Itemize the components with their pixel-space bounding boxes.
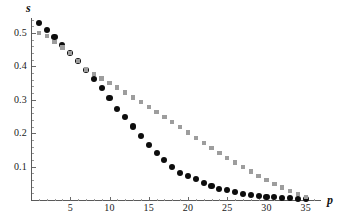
x-axis-line	[31, 200, 321, 201]
data-point	[264, 178, 268, 182]
data-point	[249, 169, 253, 173]
data-point	[263, 194, 269, 200]
data-point	[45, 34, 49, 38]
y-axis-tick-minor	[32, 80, 34, 81]
y-axis-tick-minor	[32, 173, 34, 174]
data-point	[193, 176, 199, 182]
y-axis-tick-major	[32, 133, 36, 134]
data-point	[232, 189, 238, 195]
y-axis-tick-minor	[32, 107, 34, 108]
data-point	[68, 51, 72, 55]
data-point	[60, 45, 64, 49]
data-point	[272, 182, 276, 186]
data-point	[304, 195, 308, 199]
x-axis-tick-major	[188, 197, 189, 201]
data-point	[288, 189, 292, 193]
x-axis-tick-major	[110, 197, 111, 201]
data-point	[106, 95, 112, 101]
data-point	[194, 136, 198, 140]
data-point	[115, 85, 119, 89]
data-point	[233, 160, 237, 164]
data-point	[99, 85, 105, 91]
x-axis-tick-minor	[196, 199, 197, 201]
x-axis-tick-minor	[157, 199, 158, 201]
data-point	[217, 151, 221, 155]
y-axis-tick-label: 0.1	[3, 161, 27, 172]
x-axis-tick-label: 10	[97, 202, 123, 213]
x-axis-tick-minor	[180, 199, 181, 201]
y-axis-tick-minor	[32, 86, 34, 87]
data-point	[256, 193, 262, 199]
x-axis-tick-major	[149, 197, 150, 201]
data-point	[44, 27, 50, 33]
y-axis-tick-label: 0.5	[3, 27, 27, 38]
x-axis-tick-minor	[219, 199, 220, 201]
data-point	[139, 100, 143, 104]
data-point	[295, 196, 301, 202]
y-axis-tick-minor	[32, 46, 34, 47]
data-point	[162, 115, 166, 119]
scatter-plot-figure: 5101520253035 0.10.20.30.40.5 s p	[0, 0, 344, 222]
data-point	[92, 72, 96, 76]
data-point	[114, 106, 120, 112]
y-axis-tick-minor	[32, 40, 34, 41]
y-axis-tick-minor	[32, 187, 34, 188]
data-point	[131, 95, 135, 99]
x-axis-tick-minor	[102, 199, 103, 201]
x-axis-tick-minor	[117, 199, 118, 201]
x-axis-tick-label: 30	[254, 202, 280, 213]
y-axis-tick-minor	[32, 147, 34, 148]
x-axis-tick-minor	[251, 199, 252, 201]
data-point	[170, 120, 174, 124]
y-axis-tick-label: 0.4	[3, 60, 27, 71]
x-axis-tick-minor	[243, 199, 244, 201]
x-axis-tick-minor	[172, 199, 173, 201]
y-axis-tick-minor	[32, 160, 34, 161]
y-axis-tick-major	[32, 66, 36, 67]
data-point	[169, 164, 175, 170]
y-axis-tick-minor	[32, 113, 34, 114]
data-point	[154, 150, 160, 156]
data-point	[216, 186, 222, 192]
y-axis-tick-minor	[32, 60, 34, 61]
data-point	[241, 165, 245, 169]
data-point	[161, 157, 167, 163]
data-point	[130, 123, 136, 129]
data-point	[154, 110, 158, 114]
x-axis-tick-minor	[133, 199, 134, 201]
x-axis-tick-label: 20	[175, 202, 201, 213]
y-axis-tick-minor	[32, 53, 34, 54]
data-point	[225, 156, 229, 160]
y-axis-tick-major	[32, 100, 36, 101]
x-axis-tick-label: 5	[57, 202, 83, 213]
x-axis-tick-minor	[62, 199, 63, 201]
x-axis-tick-minor	[94, 199, 95, 201]
x-axis-tick-label: 35	[293, 202, 319, 213]
y-axis-tick-label: 0.3	[3, 94, 27, 105]
x-axis-tick-minor	[55, 199, 56, 201]
y-axis-tick-minor	[32, 73, 34, 74]
x-axis-tick-minor	[259, 199, 260, 201]
x-axis-tick-minor	[164, 199, 165, 201]
x-axis-tick-label: 25	[214, 202, 240, 213]
data-point	[52, 40, 56, 44]
data-point	[178, 125, 182, 129]
x-axis-tick-minor	[39, 199, 40, 201]
data-point	[36, 20, 42, 26]
y-axis-tick-minor	[32, 193, 34, 194]
data-point	[107, 81, 111, 85]
x-axis-tick-label: 15	[136, 202, 162, 213]
y-axis-tick-major	[32, 167, 36, 168]
data-point	[296, 192, 300, 196]
data-point	[146, 142, 152, 148]
data-point	[122, 114, 128, 120]
x-axis-tick-major	[70, 197, 71, 201]
y-axis-tick-minor	[32, 26, 34, 27]
data-point	[248, 192, 254, 198]
data-point	[186, 130, 190, 134]
y-axis-tick-minor	[32, 127, 34, 128]
data-point	[76, 59, 80, 63]
data-point	[37, 31, 41, 35]
data-point	[224, 187, 230, 193]
x-axis-label: p	[327, 193, 333, 208]
